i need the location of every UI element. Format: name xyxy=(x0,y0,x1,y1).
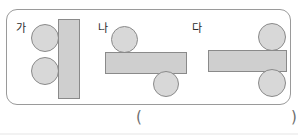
answer-close-paren: ) xyxy=(291,110,297,125)
na-horizontal-bar xyxy=(105,52,187,74)
figure-frame: 가 나 다 xyxy=(6,9,291,105)
answer-row: ( ) xyxy=(6,107,291,133)
group-label-na: 나 xyxy=(98,23,108,34)
answer-open-paren: ( xyxy=(136,110,142,125)
na-circle-below-right xyxy=(153,71,179,97)
da-circle-above-right xyxy=(258,23,286,51)
ga-vertical-bar xyxy=(58,19,80,99)
na-circle-above-left xyxy=(111,26,138,53)
da-circle-below-right xyxy=(258,69,286,97)
group-label-ga: 가 xyxy=(16,23,26,34)
group-label-da: 다 xyxy=(192,23,202,34)
ga-circle-bottom-left xyxy=(31,57,59,85)
ga-circle-top-left xyxy=(31,24,59,52)
scan-edge xyxy=(0,133,298,135)
worksheet-figure: 가 나 다 ( ) xyxy=(0,0,298,135)
